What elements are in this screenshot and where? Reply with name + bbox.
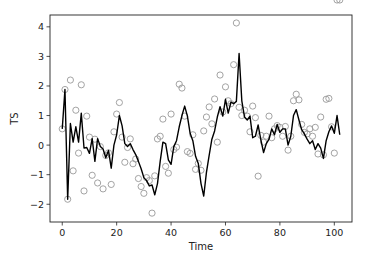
y-tick-label: 3 [38,51,44,62]
y-tick-label: 1 [38,110,44,121]
x-tick-label: 0 [59,227,65,238]
y-tick-label: −1 [30,169,44,180]
x-tick-label: 100 [325,227,343,238]
x-axis-label: Time [188,241,213,252]
y-axis: −2−101234 [30,21,50,209]
x-tick-label: 80 [274,227,286,238]
y-tick-label: 0 [38,140,44,151]
x-tick-label: 60 [219,227,231,238]
y-tick-label: 4 [38,21,44,32]
x-tick-label: 20 [111,227,123,238]
plot-area [50,15,352,222]
x-axis: 020406080100 [59,222,343,238]
y-axis-label: TS [9,112,20,125]
chart: 020406080100 −2−101234 Time TS [0,0,378,261]
x-tick-label: 40 [165,227,177,238]
y-tick-label: 2 [38,80,44,91]
y-tick-label: −2 [30,199,44,210]
